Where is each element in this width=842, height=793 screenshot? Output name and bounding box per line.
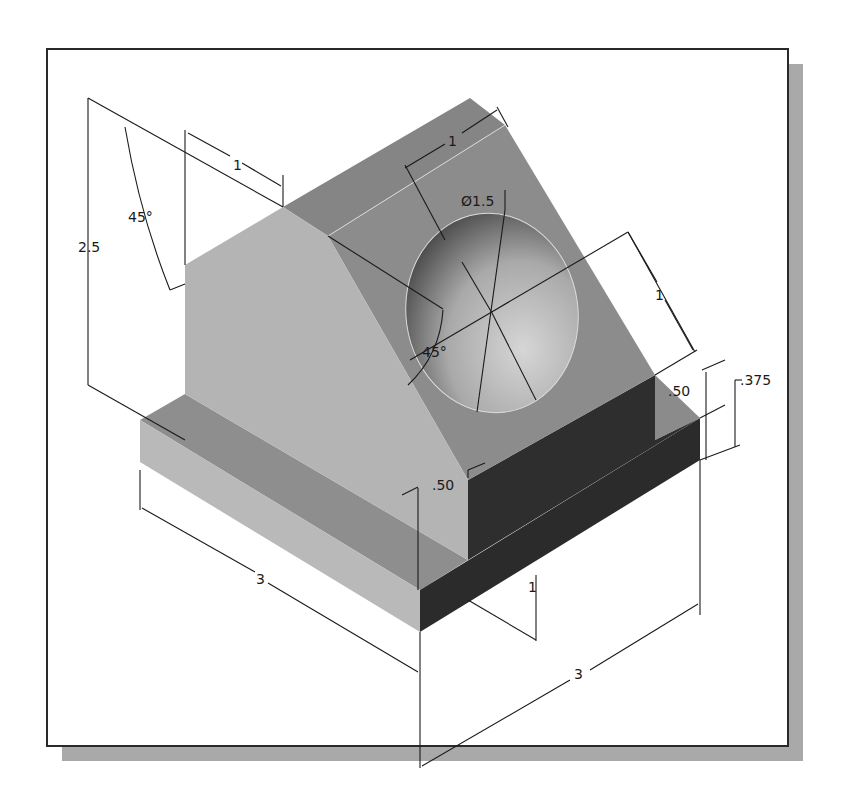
dim-upright-thickness-right: .50 bbox=[668, 383, 690, 399]
dim-overall-height: 2.5 bbox=[78, 239, 100, 255]
dim-step-height: 1 bbox=[528, 579, 537, 595]
dim-width-right: 3 bbox=[574, 666, 583, 682]
dim-slant-top-width: 1 bbox=[448, 133, 457, 149]
dim-top-flat-width: 1 bbox=[233, 157, 242, 173]
dim-slope-angle: 45° bbox=[128, 209, 153, 225]
dim-hole-center-offset: 1 bbox=[655, 287, 664, 303]
dim-hole-diameter: Ø1.5 bbox=[461, 193, 494, 209]
dim-base-thickness: .375 bbox=[740, 372, 771, 388]
dim-upright-thickness-front: .50 bbox=[432, 477, 454, 493]
dim-depth-left: 3 bbox=[256, 571, 265, 587]
dim-hole-angle: 45° bbox=[422, 344, 447, 360]
isometric-drawing: 2.5 45° 1 1 Ø1.5 1 45° .375 .50 .50 3 3 … bbox=[0, 0, 842, 793]
